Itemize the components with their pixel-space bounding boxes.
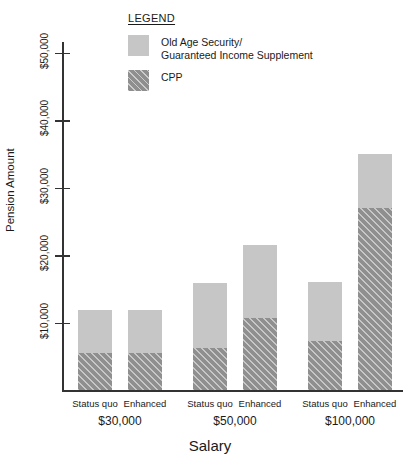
bar-segment-cpp [358,208,392,390]
y-axis-tick [55,120,70,122]
bar-segment-oas-gis [193,283,227,348]
y-axis-tick [55,188,70,190]
y-axis-tick-label: $50,000 [39,32,50,68]
legend-label-cpp: CPP [161,70,183,84]
x-axis-category-label: Enhanced [345,398,405,409]
bar-30000-enhanced [128,310,162,390]
pension-bar-chart: LEGEND Old Age Security/ Guaranteed Inco… [0,0,420,470]
legend-title: LEGEND [128,12,175,24]
x-axis-category-label: Enhanced [115,398,175,409]
bar-segment-cpp [78,353,112,390]
legend-swatch-oas-gis-icon [128,35,149,56]
y-axis-tick [55,255,70,257]
bar-segment-cpp [128,353,162,390]
bar-50000-status-quo [193,283,227,390]
y-axis-tick [55,323,70,325]
y-axis-tick-label: $20,000 [39,235,50,271]
bar-segment-oas-gis [128,310,162,353]
bar-segment-cpp [243,318,277,390]
x-axis-title: Salary [0,437,420,454]
legend: LEGEND Old Age Security/ Guaranteed Inco… [128,8,388,91]
y-axis-tick [55,53,70,55]
bar-30000-status-quo [78,310,112,390]
y-axis-tick-label: $30,000 [39,167,50,203]
bar-segment-oas-gis [358,154,392,208]
bar-100000-status-quo [308,282,342,390]
x-axis-group-label: $100,000 [280,414,420,428]
y-axis-tick-label: $40,000 [39,100,50,136]
x-axis-line [62,390,403,392]
bar-50000-enhanced [243,245,277,390]
y-axis-title: Pension Amount [4,148,16,232]
bar-segment-oas-gis [243,245,277,318]
y-axis-line [62,42,64,391]
x-axis-category-label: Enhanced [230,398,290,409]
bar-100000-enhanced [358,154,392,390]
legend-swatch-cpp-icon [128,70,149,91]
y-axis-tick-label: $10,000 [39,302,50,338]
bar-segment-oas-gis [308,282,342,341]
legend-item-oas-gis: Old Age Security/ Guaranteed Income Supp… [128,35,388,61]
bar-segment-cpp [308,341,342,390]
bar-segment-cpp [193,348,227,390]
legend-item-cpp: CPP [128,70,388,91]
legend-label-oas-gis: Old Age Security/ Guaranteed Income Supp… [161,35,313,61]
bar-segment-oas-gis [78,310,112,353]
